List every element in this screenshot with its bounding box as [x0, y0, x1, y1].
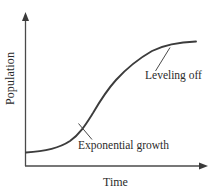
x-axis-title: Time: [103, 176, 128, 188]
arrow-up-icon: [22, 12, 29, 21]
annotation-leveling-off: Leveling off: [145, 70, 202, 82]
y-axis-title: Population: [4, 52, 16, 105]
leveling-off-leader-line: [156, 48, 171, 72]
population-growth-figure: Population Time Exponential growth Level…: [0, 0, 213, 195]
population-curve: [26, 42, 196, 153]
arrow-right-icon: [199, 163, 208, 170]
annotation-exponential-growth: Exponential growth: [78, 140, 169, 152]
chart-canvas: [0, 0, 213, 195]
